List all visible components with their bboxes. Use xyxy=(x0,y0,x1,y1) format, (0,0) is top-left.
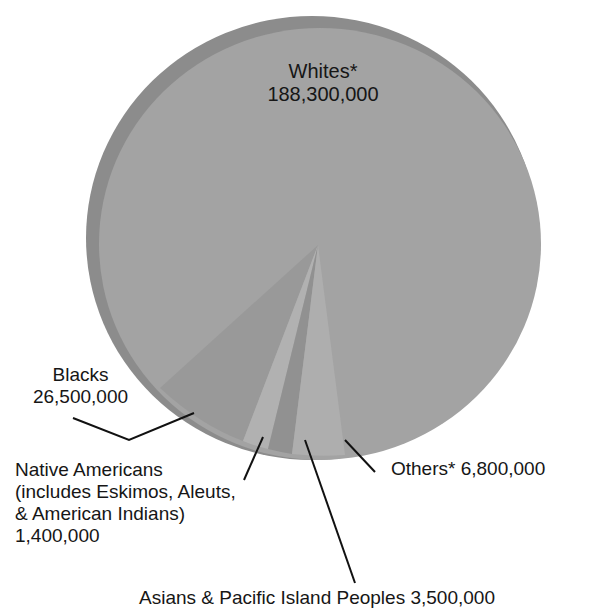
leader-blacks xyxy=(73,413,194,440)
label-blacks: Blacks 26,500,000 xyxy=(8,364,153,408)
label-native-line3: & American Indians) xyxy=(15,503,236,525)
leader-asians xyxy=(305,440,355,583)
label-native-line2: (includes Eskimos, Aleuts, xyxy=(15,481,236,503)
label-whites-value: 188,300,000 xyxy=(238,83,408,106)
label-blacks-value: 26,500,000 xyxy=(8,386,153,408)
label-native-value: 1,400,000 xyxy=(15,525,236,547)
label-others: Others* 6,800,000 xyxy=(391,458,545,480)
label-whites: Whites* 188,300,000 xyxy=(238,60,408,106)
label-native-americans: Native Americans (includes Eskimos, Aleu… xyxy=(15,459,236,547)
label-blacks-name: Blacks xyxy=(8,364,153,386)
label-whites-name: Whites* xyxy=(238,60,408,83)
label-asians-pacific: Asians & Pacific Island Peoples 3,500,00… xyxy=(139,587,495,609)
label-native-line1: Native Americans xyxy=(15,459,236,481)
